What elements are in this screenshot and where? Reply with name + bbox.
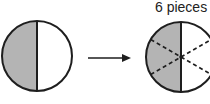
left-shaded-half [2, 21, 37, 91]
fraction-diagram: 6 pieces [0, 0, 210, 104]
diagram-canvas [0, 0, 210, 104]
arrow-icon [88, 54, 131, 62]
right-circle-six-pieces [146, 22, 210, 92]
center-dot [179, 55, 183, 59]
right-shaded-half [146, 22, 181, 92]
pieces-label: 6 pieces [155, 0, 207, 15]
left-circle-half-shaded [2, 21, 72, 91]
